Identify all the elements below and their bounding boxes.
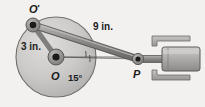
label-rod-length: 9 in. xyxy=(93,21,113,32)
mechanism-diagram: O ′ O P 3 in. 9 in. 15° xyxy=(0,0,205,107)
label-disk-center: O xyxy=(51,70,60,82)
crank-pin-center xyxy=(30,22,37,29)
label-crank-radius: 3 in. xyxy=(21,41,41,52)
piston-highlight xyxy=(163,50,199,54)
piston-pin-center xyxy=(135,56,140,61)
label-angle: 15° xyxy=(68,72,83,83)
label-piston-pin: P xyxy=(133,68,141,80)
figure-container: O ′ O P 3 in. 9 in. 15° xyxy=(0,0,205,107)
disk-center-pin xyxy=(52,53,59,60)
